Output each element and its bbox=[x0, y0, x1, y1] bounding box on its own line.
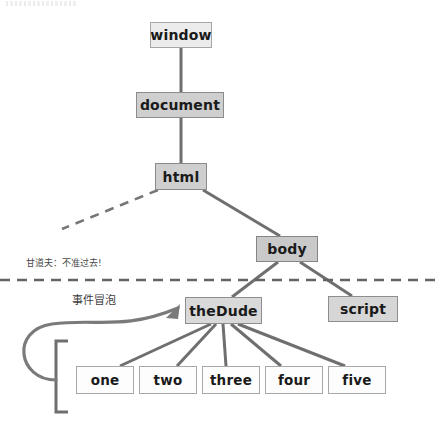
node-window[interactable]: window bbox=[150, 22, 212, 48]
node-html-label: html bbox=[163, 169, 200, 185]
node-thedude[interactable]: theDude bbox=[185, 297, 262, 324]
annotation-event-bubbling: 事件冒泡 bbox=[72, 291, 116, 307]
edge-thedude-three bbox=[223, 324, 226, 366]
node-document-label: document bbox=[140, 97, 220, 113]
node-leaf-two-label: two bbox=[154, 372, 183, 388]
node-window-label: window bbox=[150, 27, 211, 43]
leaf-group-bracket bbox=[56, 341, 68, 412]
node-body[interactable]: body bbox=[256, 236, 318, 262]
node-document[interactable]: document bbox=[136, 92, 224, 118]
node-leaf-three[interactable]: three bbox=[202, 366, 260, 394]
node-html[interactable]: html bbox=[155, 163, 207, 190]
node-leaf-five[interactable]: five bbox=[328, 366, 386, 394]
node-leaf-four[interactable]: four bbox=[265, 366, 323, 394]
node-leaf-one[interactable]: one bbox=[76, 366, 134, 394]
node-leaf-five-label: five bbox=[342, 372, 371, 388]
edge-html-omitted-dashed bbox=[62, 190, 158, 229]
node-script-label: script bbox=[340, 301, 386, 317]
node-body-label: body bbox=[267, 241, 307, 257]
node-leaf-one-label: one bbox=[91, 372, 120, 388]
node-leaf-two[interactable]: two bbox=[139, 366, 197, 394]
node-thedude-label: theDude bbox=[189, 303, 258, 319]
diagram-edges bbox=[0, 0, 438, 429]
edge-html-body bbox=[203, 190, 280, 236]
node-leaf-three-label: three bbox=[210, 372, 252, 388]
dom-tree-diagram: window document html body script theDude… bbox=[0, 0, 438, 429]
node-leaf-four-label: four bbox=[278, 372, 310, 388]
node-script[interactable]: script bbox=[328, 296, 398, 322]
annotation-barrier-note: 甘道夫：不准过去! bbox=[26, 256, 102, 269]
scan-artifact bbox=[6, 1, 76, 6]
